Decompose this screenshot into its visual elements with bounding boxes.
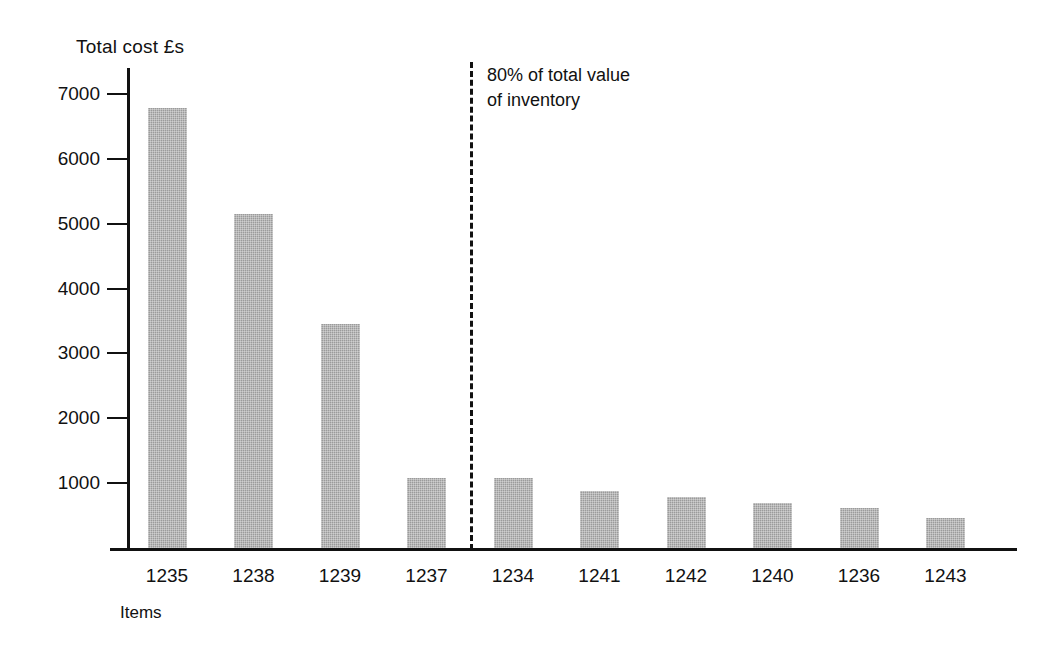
bar-chart: Total cost £s 10002000300040005000600070… <box>0 0 1047 657</box>
y-axis-tick <box>107 158 128 160</box>
x-axis-category-label: 1239 <box>295 565 385 587</box>
x-axis-category-label: 1237 <box>382 565 472 587</box>
bar <box>321 324 360 548</box>
x-axis-category-label: 1234 <box>468 565 558 587</box>
y-axis-tick <box>107 223 128 225</box>
y-axis-tick <box>107 288 128 290</box>
y-axis-tick <box>107 93 128 95</box>
y-axis-tick <box>107 482 128 484</box>
x-axis-title: Items <box>120 603 162 623</box>
plot-area <box>129 68 1017 548</box>
x-axis-category-label: 1235 <box>122 565 212 587</box>
annotation-line-1: 80% of total value <box>487 63 630 88</box>
eighty-percent-divider-line <box>470 62 473 550</box>
bar <box>926 518 965 548</box>
y-axis-tick-label: 1000 <box>0 473 100 492</box>
bar <box>494 478 533 548</box>
x-axis-category-label: 1240 <box>728 565 818 587</box>
x-axis-category-label: 1242 <box>641 565 731 587</box>
x-axis-line <box>110 548 1017 551</box>
bar <box>234 214 273 548</box>
x-axis-category-label: 1238 <box>209 565 299 587</box>
eighty-percent-annotation: 80% of total value of inventory <box>487 63 630 113</box>
y-axis-tick-label: 2000 <box>0 408 100 427</box>
y-axis-tick <box>107 352 128 354</box>
bar <box>667 497 706 548</box>
y-axis-tick <box>107 417 128 419</box>
bar <box>580 491 619 548</box>
y-axis-tick-label: 7000 <box>0 84 100 103</box>
bar <box>407 478 446 548</box>
bar <box>148 108 187 548</box>
x-axis-category-label: 1243 <box>901 565 991 587</box>
y-axis-tick-label: 3000 <box>0 343 100 362</box>
y-axis-tick-label: 4000 <box>0 279 100 298</box>
x-axis-category-label: 1241 <box>555 565 645 587</box>
y-axis-tick-label: 5000 <box>0 214 100 233</box>
bar <box>753 503 792 548</box>
annotation-line-2: of inventory <box>487 88 630 113</box>
y-axis-tick-label: 6000 <box>0 149 100 168</box>
y-axis-title: Total cost £s <box>76 36 184 58</box>
x-axis-category-label: 1236 <box>814 565 904 587</box>
bar <box>840 508 879 548</box>
